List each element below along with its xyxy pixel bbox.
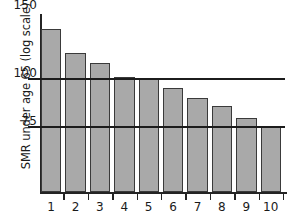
x-tick-label-9: 9 — [236, 200, 256, 214]
x-tick-label-6: 6 — [163, 200, 183, 214]
gridline-100 — [28, 78, 285, 80]
x-tick-label-3: 3 — [90, 200, 110, 214]
gridline-75 — [28, 126, 285, 128]
bar-9 — [236, 118, 256, 192]
x-tick-mark — [283, 194, 284, 200]
x-tick-label-4: 4 — [114, 200, 134, 214]
chart-figure: SMR under age 65 (log scale) 150 100 75 … — [0, 0, 287, 219]
x-axis-line — [40, 192, 287, 194]
x-tick-label-8: 8 — [212, 200, 232, 214]
x-tick-label-10: 10 — [261, 200, 281, 214]
x-tick-label-1: 1 — [41, 200, 61, 214]
bar-6 — [163, 88, 183, 192]
bar-2 — [65, 53, 85, 192]
x-tick-label-5: 5 — [139, 200, 159, 214]
bar-7 — [187, 98, 207, 192]
x-tick-label-2: 2 — [65, 200, 85, 214]
y-tick-label-150: 150 — [3, 0, 37, 11]
x-tick-label-7: 7 — [187, 200, 207, 214]
bar-5 — [139, 79, 159, 192]
y-axis-tick-labels: 150 100 75 — [0, 0, 37, 219]
bar-4 — [114, 77, 134, 192]
bar-10 — [261, 127, 281, 192]
bar-8 — [212, 106, 232, 192]
bar-1 — [41, 29, 61, 192]
